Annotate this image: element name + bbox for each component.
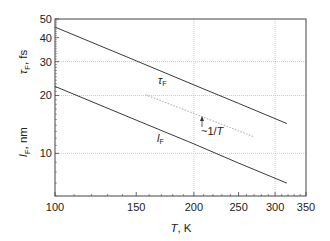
x-axis-title: T, K <box>170 222 191 234</box>
y-tick-label: 40 <box>40 32 52 44</box>
series-line-1 <box>55 86 287 183</box>
y-tick-label: 20 <box>40 89 52 101</box>
y-tick-label: 50 <box>40 13 52 25</box>
grid-lines <box>55 19 306 196</box>
axis-tick-labels: 1001502002503003501020304050 <box>40 13 315 213</box>
series-line-0 <box>55 27 287 123</box>
y-axis-title-bottom: lF, nm <box>17 127 32 157</box>
axis-ticks <box>55 19 306 196</box>
data-series <box>55 27 287 183</box>
y-tick-label: 10 <box>40 147 52 159</box>
series-label-tau: τF <box>158 74 166 87</box>
svg-text:~1/T: ~1/T <box>201 125 225 137</box>
x-tick-label: 250 <box>229 201 247 213</box>
x-tick-label: 100 <box>46 201 64 213</box>
x-tick-label: 150 <box>127 201 145 213</box>
x-tick-label: 300 <box>266 201 284 213</box>
one-over-t-annotation: ~1/T <box>200 116 225 137</box>
x-tick-label: 350 <box>297 201 315 213</box>
chart: 1001502002503003501020304050 T, K τF, fs… <box>0 0 330 241</box>
y-axis-title-top: τF, fs <box>17 49 32 74</box>
series-label-l: lF <box>157 132 164 145</box>
x-tick-label: 200 <box>185 201 203 213</box>
arrowhead-icon <box>200 116 204 121</box>
y-tick-label: 30 <box>40 56 52 68</box>
plot-frame <box>55 19 306 196</box>
plot-border <box>55 19 306 196</box>
